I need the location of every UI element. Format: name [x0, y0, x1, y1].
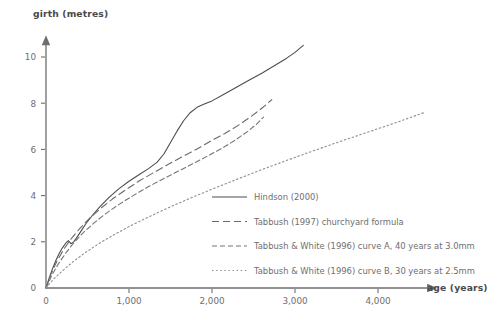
y-axis-tick-label: 0 — [30, 283, 36, 293]
girth-vs-age-line-chart: 0246810 01,0002,0003,0004,000 Hindson (2… — [0, 0, 504, 321]
y-axis-tick-label: 4 — [30, 191, 36, 201]
x-axis-tick-label: 0 — [43, 296, 49, 306]
legend-label: Tabbush (1997) churchyard formula — [253, 217, 404, 227]
legend-label: Hindson (2000) — [254, 192, 319, 202]
x-axis-tick-label: 1,000 — [116, 296, 142, 306]
x-axis-title: age (years) — [427, 282, 488, 293]
legend-label: Tabbush & White (1996) curve B, 30 years… — [253, 266, 475, 276]
y-axis-tick-label: 10 — [25, 52, 37, 62]
y-axis-tick-label: 8 — [30, 99, 36, 109]
y-axis-title: girth (metres) — [33, 8, 108, 19]
chart-figure: 0246810 01,0002,0003,0004,000 Hindson (2… — [0, 0, 504, 321]
y-axis-tick-label: 2 — [30, 237, 36, 247]
legend-label: Tabbush & White (1996) curve A, 40 years… — [253, 241, 475, 251]
x-axis-tick-label: 3,000 — [282, 296, 308, 306]
x-axis-tick-label: 4,000 — [365, 296, 391, 306]
x-axis-tick-label: 2,000 — [199, 296, 225, 306]
y-axis-tick-label: 6 — [30, 145, 36, 155]
